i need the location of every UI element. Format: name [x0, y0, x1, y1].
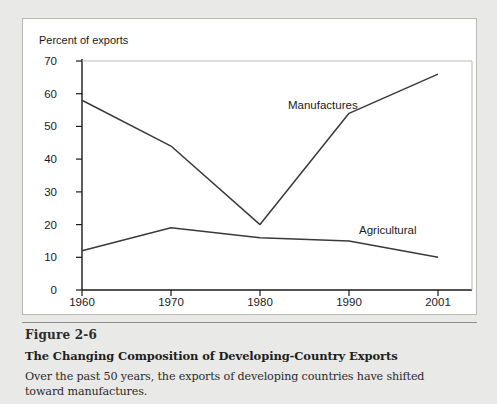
figure-title: The Changing Composition of Developing-C… — [25, 349, 398, 363]
caption-divider — [22, 322, 477, 323]
series-line-manufactures — [82, 74, 438, 224]
figure-description: Over the past 50 years, the exports of d… — [25, 369, 455, 399]
figure-number: Figure 2-6 — [25, 328, 97, 342]
figure-caption-block: Figure 2-6 The Changing Composition of D… — [22, 322, 477, 394]
chart-panel: Percent of exports 70 60 50 40 30 20 10 … — [22, 18, 477, 315]
figure-container: Percent of exports 70 60 50 40 30 20 10 … — [0, 0, 497, 404]
chart-svg — [23, 19, 476, 314]
series-line-agricultural — [82, 228, 438, 257]
chart-plot-area: Percent of exports 70 60 50 40 30 20 10 … — [23, 19, 476, 314]
y-tick-marks — [76, 61, 82, 290]
x-tick-marks — [82, 290, 438, 296]
